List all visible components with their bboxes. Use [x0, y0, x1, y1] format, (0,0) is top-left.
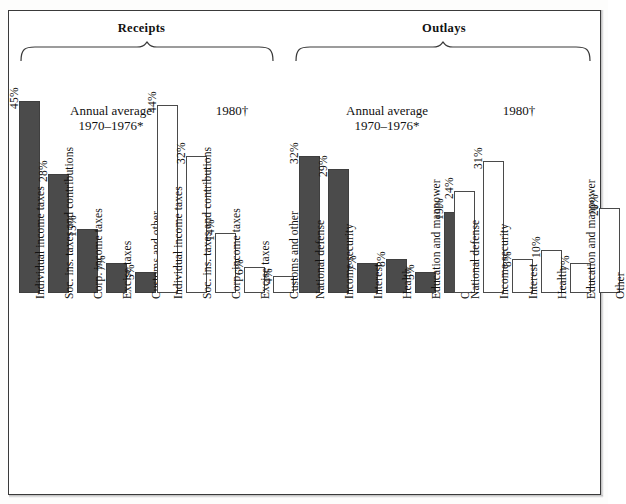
value-label-outlays-average-4: 5%	[404, 264, 416, 280]
value-label-receipts-1980-1: 32%	[175, 142, 187, 164]
value-label-outlays-average-2: 7%	[346, 255, 358, 271]
category-label-outlays-average-2: Interest	[372, 264, 384, 299]
value-label-receipts-average-2: 15%	[66, 215, 78, 237]
value-label-receipts-1980-2: 14%	[204, 219, 216, 241]
value-label-outlays-1980-0: 24%	[443, 177, 455, 199]
value-label-outlays-1980-4: 7%	[559, 255, 571, 271]
category-label-outlays-1980-5: Other	[614, 272, 626, 299]
category-label-outlays-1980-2: Interest	[527, 264, 539, 299]
category-label-receipts-average-2: Corp. income taxes	[92, 208, 104, 299]
value-label-outlays-average-0: 32%	[288, 142, 300, 164]
value-label-outlays-average-5: 19%	[433, 198, 445, 220]
value-label-receipts-average-1: 28%	[37, 160, 49, 182]
value-label-receipts-1980-4: 4%	[262, 268, 274, 284]
value-label-outlays-1980-2: 8%	[501, 251, 513, 267]
value-label-outlays-average-3: 8%	[375, 251, 387, 267]
value-label-outlays-1980-5: 20%	[588, 194, 600, 216]
category-label-outlays-1980-3: Health	[556, 268, 568, 299]
plot-area: 45%Individual income taxes28%Soc. ins. t…	[9, 11, 602, 494]
value-label-receipts-average-0: 45%	[8, 87, 20, 109]
value-label-receipts-average-3: 7%	[95, 255, 107, 271]
category-label-receipts-1980-0: Individual income taxes	[172, 186, 184, 299]
category-label-receipts-average-0: Individual income taxes	[34, 186, 46, 299]
category-label-receipts-1980-2: Corp. income taxes	[230, 208, 242, 299]
page-edge-shadow-bottom	[9, 495, 603, 498]
value-label-receipts-1980-3: 6%	[233, 259, 245, 275]
category-label-outlays-1980-0: National defense	[469, 220, 481, 299]
value-label-receipts-average-4: 5%	[124, 264, 136, 280]
category-label-outlays-average-0: National defense	[314, 220, 326, 299]
value-label-outlays-1980-3: 10%	[530, 236, 542, 258]
value-label-outlays-1980-1: 31%	[472, 147, 484, 169]
value-label-outlays-average-1: 29%	[317, 155, 329, 177]
value-label-receipts-1980-0: 44%	[146, 91, 158, 113]
figure-frame: Receipts Outlays Annual average 1970–197…	[8, 10, 601, 495]
